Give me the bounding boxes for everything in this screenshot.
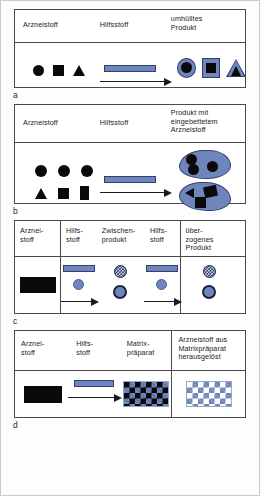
drug-rectangle-icon bbox=[24, 386, 62, 403]
excipient-bar-icon bbox=[146, 265, 178, 272]
panel-d-drug bbox=[15, 371, 70, 417]
panel-c-header-drug: Arznei- stoff bbox=[15, 221, 61, 256]
panel-b-process bbox=[98, 143, 167, 203]
panel-c-header-excipient-1: Hilfs- stoff bbox=[61, 221, 97, 256]
panel-a-header-excipient: Hilfsstoff bbox=[98, 10, 167, 42]
panel-a-reactants bbox=[15, 43, 98, 87]
panel-b-body-row bbox=[15, 143, 245, 203]
panel-b-reactants bbox=[15, 143, 98, 203]
drug-square-icon bbox=[58, 188, 69, 199]
coated-triangle-icon bbox=[226, 59, 245, 77]
coated-pellet-icon bbox=[113, 285, 127, 299]
figure-container: Arzneistoff Hilfsstoff umhülltes Produkt bbox=[0, 0, 260, 496]
panel-a-header-drug: Arzneistoff bbox=[15, 10, 98, 42]
drug-square-icon bbox=[53, 65, 64, 76]
arrow-icon bbox=[61, 301, 93, 302]
panel-c: Arznei- stoff Hilfs- stoff Zwischen- pro… bbox=[14, 220, 246, 314]
drug-circle-icon bbox=[81, 165, 93, 177]
header-label: Arzneistoff bbox=[23, 21, 98, 30]
panel-c-intermediate bbox=[97, 257, 145, 313]
header-label: umhülltes Produkt bbox=[171, 15, 245, 32]
arrow-icon bbox=[68, 397, 116, 398]
arrow-icon bbox=[100, 81, 166, 82]
embedded-product-blob-icon bbox=[179, 182, 231, 211]
panel-c-body-row bbox=[15, 257, 245, 313]
excipient-bar-icon bbox=[104, 176, 156, 183]
panel-c-step-1 bbox=[61, 257, 97, 313]
panel-d-body-row bbox=[15, 371, 245, 417]
panel-c-product bbox=[181, 257, 245, 313]
panel-c-header-intermediate: Zwischen- produkt bbox=[97, 221, 145, 256]
embedded-product-blob-icon bbox=[179, 150, 231, 179]
panel-d-process bbox=[70, 371, 121, 417]
granule-icon bbox=[73, 279, 84, 290]
panel-b: Arzneistoff Hilfsstoff Produkt mit einge… bbox=[14, 104, 246, 204]
panel-a-products bbox=[167, 43, 245, 87]
drug-rectangle-icon bbox=[20, 277, 56, 293]
drug-circle-icon bbox=[33, 65, 44, 76]
speckled-pellet-icon bbox=[203, 265, 216, 278]
panel-c-header-row: Arznei- stoff Hilfs- stoff Zwischen- pro… bbox=[15, 221, 245, 257]
excipient-bar-icon bbox=[63, 265, 95, 272]
drug-triangle-icon bbox=[73, 65, 85, 76]
panel-a-header-row: Arzneistoff Hilfsstoff umhülltes Produkt bbox=[15, 10, 245, 43]
panel-d-header-matrix: Matrix- präparat bbox=[121, 331, 172, 370]
panel-c-letter: c bbox=[10, 314, 250, 330]
drug-triangle-icon bbox=[35, 188, 47, 199]
panel-c-header-product: über- zogenes Produkt bbox=[181, 221, 245, 256]
panel-a-letter: a bbox=[10, 88, 250, 104]
panel-b-header-excipient: Hilfsstoff bbox=[98, 105, 167, 142]
drug-circle-icon bbox=[58, 165, 70, 177]
panel-a-body-row bbox=[15, 43, 245, 87]
header-label: Hilfs- stoff bbox=[150, 227, 180, 244]
panel-d-header-leached: Arzneistoff aus Matrixpräparat herausgel… bbox=[171, 331, 245, 370]
panel-a: Arzneistoff Hilfsstoff umhülltes Produkt bbox=[14, 9, 246, 88]
header-label: Matrix- präparat bbox=[127, 340, 172, 357]
header-label: über- zogenes Produkt bbox=[186, 227, 245, 253]
header-label: Produkt mit eingebettetem Arzneistoff bbox=[171, 109, 245, 135]
panel-b-reactant-row-2 bbox=[35, 186, 98, 200]
coated-pellet-icon bbox=[202, 285, 216, 299]
header-label: Hilfsstoff bbox=[100, 21, 167, 30]
panel-d-letter: d bbox=[10, 418, 250, 434]
panel-c-drug bbox=[15, 257, 61, 313]
drug-rectangle-icon bbox=[80, 186, 89, 200]
header-label: Zwischen- produkt bbox=[102, 227, 145, 244]
panel-b-header-product: Produkt mit eingebettetem Arzneistoff bbox=[167, 105, 245, 142]
panel-d-matrix bbox=[121, 371, 172, 417]
excipient-bar-icon bbox=[104, 65, 156, 72]
header-label: Arznei- stoff bbox=[20, 227, 60, 244]
panel-d-leached bbox=[171, 371, 245, 417]
speckled-pellet-icon bbox=[114, 265, 127, 278]
leached-matrix-icon bbox=[186, 381, 232, 407]
header-label: Hilfs- stoff bbox=[76, 340, 121, 357]
matrix-preparation-icon bbox=[123, 381, 169, 407]
header-label: Hilfsstoff bbox=[100, 119, 167, 128]
arrow-icon bbox=[144, 301, 176, 302]
drug-circle-icon bbox=[35, 165, 47, 177]
granule-icon bbox=[156, 279, 167, 290]
panel-b-reactant-row-1 bbox=[35, 165, 98, 177]
panel-b-products bbox=[167, 143, 245, 203]
panel-a-header-product: umhülltes Produkt bbox=[167, 10, 245, 42]
panel-d: Arznei- stoff Hilfs- stoff Matrix- präpa… bbox=[14, 330, 246, 418]
header-label: Arznei- stoff bbox=[21, 340, 70, 357]
arrow-icon bbox=[100, 192, 166, 193]
header-label: Arzneistoff aus Matrixpräparat herausgel… bbox=[178, 336, 245, 362]
panel-d-header-drug: Arznei- stoff bbox=[15, 331, 70, 370]
panel-a-process bbox=[98, 43, 167, 87]
header-label: Hilfs- stoff bbox=[66, 227, 97, 244]
panel-d-header-excipient: Hilfs- stoff bbox=[70, 331, 121, 370]
coated-circle-icon bbox=[177, 58, 196, 78]
panel-b-header-drug: Arzneistoff bbox=[15, 105, 98, 142]
panel-d-header-row: Arznei- stoff Hilfs- stoff Matrix- präpa… bbox=[15, 331, 245, 371]
header-label: Arzneistoff bbox=[23, 119, 98, 128]
panel-b-header-row: Arzneistoff Hilfsstoff Produkt mit einge… bbox=[15, 105, 245, 143]
panel-c-step-2 bbox=[145, 257, 181, 313]
panel-c-header-excipient-2: Hilfs- stoff bbox=[145, 221, 181, 256]
coated-square-icon bbox=[202, 58, 221, 78]
excipient-bar-icon bbox=[74, 380, 114, 387]
